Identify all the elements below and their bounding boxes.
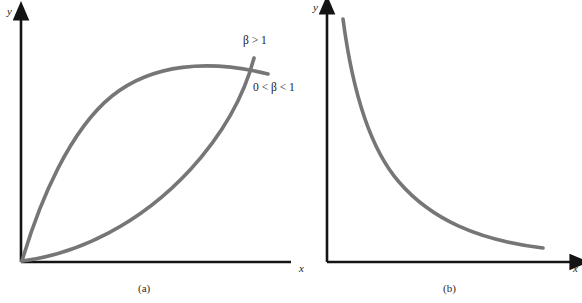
panel-b: y x (b)	[291, 0, 582, 303]
panel-b-caption: (b)	[443, 283, 456, 294]
panel-b-y-axis-label: y	[313, 2, 318, 13]
curve-decreasing-power	[343, 19, 543, 248]
annotation-beta-between-0-and-1: 0 < β < 1	[253, 82, 295, 94]
curve-beta-greater-than-1	[22, 58, 254, 261]
curve-beta-between-0-and-1	[22, 66, 268, 261]
figure-root: y x β > 1 0 < β < 1 (a) y x (	[0, 0, 582, 303]
panel-b-x-axis-label: x	[573, 263, 578, 274]
panel-a-caption: (a)	[138, 283, 150, 294]
panel-a-y-axis-label: y	[7, 6, 12, 17]
panel-b-plot	[291, 0, 582, 303]
panel-a: y x β > 1 0 < β < 1 (a)	[0, 0, 291, 303]
annotation-beta-greater-than-1: β > 1	[243, 35, 267, 47]
